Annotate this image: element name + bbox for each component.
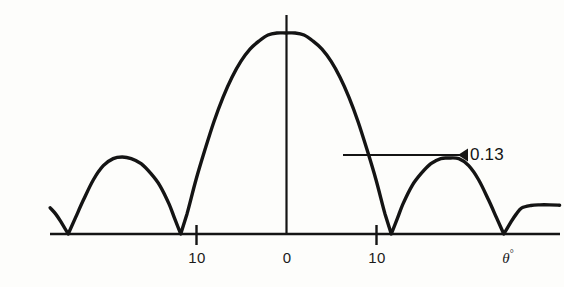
sidelobe-level-label: 0.13	[470, 145, 504, 165]
figure-canvas: 10 0 10 θ° 0.13	[0, 0, 564, 287]
tick-label-right-10: 10	[368, 249, 385, 266]
tick-label-zero: 0	[283, 249, 292, 266]
tick-label-left-10: 10	[188, 249, 205, 266]
x-axis-label: θ°	[502, 248, 513, 267]
radiation-pattern-curve	[50, 33, 559, 234]
radiation-pattern-plot	[0, 0, 564, 287]
degree-symbol: °	[510, 248, 514, 259]
